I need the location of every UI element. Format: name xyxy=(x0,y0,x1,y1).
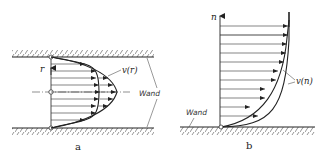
bottom-wall-hatch xyxy=(12,128,154,135)
caption-b: b xyxy=(246,140,252,151)
velocity-arrows-a xyxy=(51,64,116,120)
wall-leader-bottom xyxy=(147,99,157,127)
origin-point xyxy=(219,125,223,129)
turbulent-boundary-curve xyxy=(221,12,289,127)
n-axis-label: n xyxy=(211,12,217,22)
wall-label-b: Wand xyxy=(186,108,207,117)
wall-label-a: Wand xyxy=(139,89,160,98)
caption-a: a xyxy=(75,141,81,152)
top-wall-hatch xyxy=(12,50,154,57)
wall-leader-top xyxy=(147,58,157,88)
wall-leader-b xyxy=(189,118,194,127)
r-axis-label: r xyxy=(40,64,45,74)
profile-label-a: v(r) xyxy=(122,65,138,75)
velocity-profile-diagrams: r v(r) Wand a xyxy=(0,0,325,155)
laminar-profile-curve xyxy=(51,57,117,128)
velocity-arrows-b xyxy=(220,26,288,116)
wall-hatch-b xyxy=(180,127,315,135)
profile-leader-b2 xyxy=(288,82,295,84)
profile-label-b: v(n) xyxy=(296,76,313,86)
panel-b-boundary-layer: n v(n) Wand b xyxy=(180,12,315,151)
panel-a-pipe-flow: r v(r) Wand a xyxy=(12,50,160,152)
laminar-boundary-curve xyxy=(221,20,289,127)
profile-leader-a xyxy=(108,70,121,76)
